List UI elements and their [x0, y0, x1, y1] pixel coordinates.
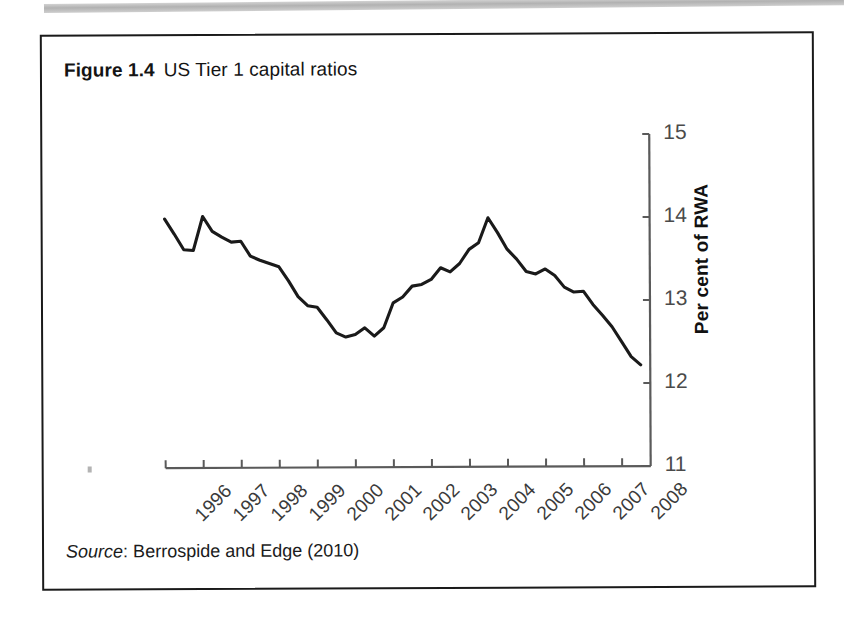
y-tick-label: 13: [664, 286, 687, 310]
x-axis-line: [166, 466, 651, 468]
y-tick-label: 15: [663, 120, 686, 144]
figure-container: Figure 1.4US Tier 1 capital ratios 11121…: [40, 31, 816, 590]
source-citation: : Berrospide and Edge (2010): [123, 540, 359, 561]
scan-artifact-band: [44, 0, 844, 13]
scan-speck-artifact: [88, 466, 92, 472]
y-tick-label: 14: [664, 203, 687, 227]
y-tick-label: 12: [664, 369, 687, 393]
capital-ratio-line: [165, 215, 641, 367]
source-label: Source: [66, 541, 123, 561]
y-tick-label: 11: [665, 452, 687, 476]
chart-plot-area: 1112131415 19961997199819992000200120022…: [42, 33, 814, 588]
y-axis-title: Per cent of RWA: [690, 184, 715, 335]
source-note: Source: Berrospide and Edge (2010): [66, 540, 359, 562]
